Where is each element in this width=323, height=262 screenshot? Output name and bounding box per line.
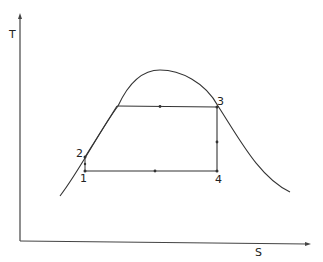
y-axis-arrow-icon xyxy=(18,13,22,19)
x-axis-arrow-icon xyxy=(305,242,311,246)
midpoint-marker xyxy=(216,141,219,144)
x-axis xyxy=(20,241,308,244)
point-2-3-mid-marker xyxy=(84,163,86,165)
y-axis-label: T xyxy=(9,29,16,40)
x-axis-label: S xyxy=(255,247,262,258)
point-2-marker xyxy=(84,156,87,159)
point-1-label: 1 xyxy=(80,173,87,184)
saturation-dome xyxy=(60,70,290,196)
point-4-label: 4 xyxy=(215,174,222,185)
midpoint-marker xyxy=(154,170,157,173)
ts-diagram xyxy=(0,0,323,262)
point-3-label: 3 xyxy=(217,96,224,107)
point-2-label: 2 xyxy=(76,148,83,159)
process-evaporation xyxy=(117,106,217,107)
midpoint-marker xyxy=(159,105,162,108)
process-2-heating xyxy=(85,106,117,157)
